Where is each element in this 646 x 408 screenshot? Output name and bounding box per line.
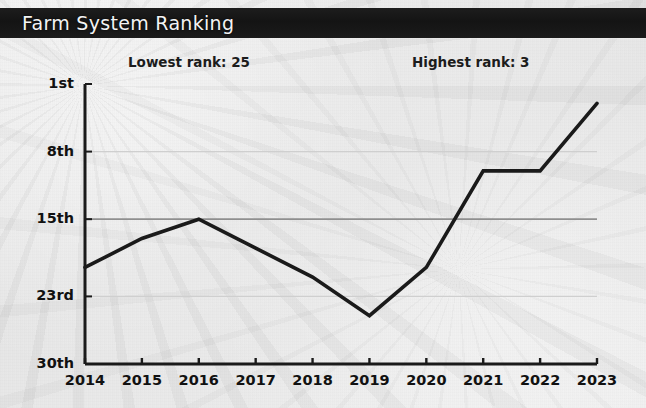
x-axis-label-2016: 2016 [171, 372, 227, 388]
axis-group [85, 84, 597, 364]
ranking-data-line [85, 103, 597, 315]
x-axis-label-2015: 2015 [114, 372, 170, 388]
y-axis-label-1st: 1st [14, 75, 74, 91]
y-axis-label-15th: 15th [14, 210, 74, 226]
line-chart-plot [0, 0, 646, 408]
gridline-group [85, 152, 597, 297]
x-axis-label-2022: 2022 [512, 372, 568, 388]
x-axis-label-2020: 2020 [398, 372, 454, 388]
x-axis-label-2023: 2023 [569, 372, 625, 388]
y-axis-label-8th: 8th [14, 143, 74, 159]
y-axis-label-30th: 30th [14, 355, 74, 371]
x-axis-label-2018: 2018 [285, 372, 341, 388]
chart-figure: Farm System Ranking Lowest rank: 25 High… [0, 0, 646, 408]
y-axis-label-23rd: 23rd [14, 287, 74, 303]
x-axis-label-2019: 2019 [341, 372, 397, 388]
x-axis-label-2017: 2017 [228, 372, 284, 388]
axis-tick-group [85, 84, 597, 364]
x-axis-label-2014: 2014 [57, 372, 113, 388]
x-axis-label-2021: 2021 [455, 372, 511, 388]
